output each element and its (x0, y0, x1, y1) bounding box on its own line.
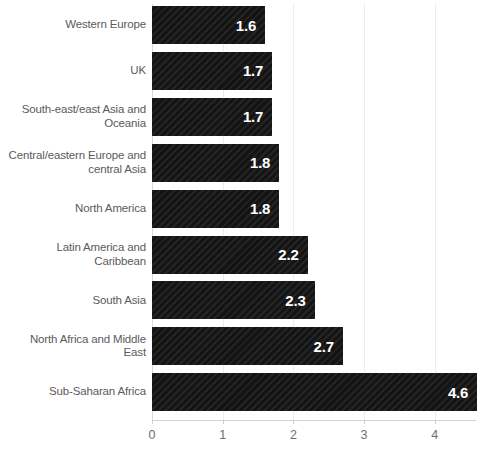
bar[interactable]: 1.6 (152, 6, 265, 44)
bar-value-label: 2.7 (314, 338, 343, 355)
bar-row: Western Europe1.6 (0, 6, 486, 44)
tick-mark-0 (152, 420, 153, 424)
bar-value-label: 1.7 (243, 108, 272, 125)
bar-row: Latin America and Caribbean2.2 (0, 236, 486, 274)
x-tick-label: 2 (278, 428, 308, 442)
x-tick-label: 0 (137, 428, 167, 442)
bar-row: North Africa and Middle East2.7 (0, 327, 486, 365)
bar[interactable]: 4.6 (152, 373, 477, 411)
bar[interactable]: 2.3 (152, 281, 315, 319)
category-label: UK (6, 52, 152, 90)
bar-container: 1.8 (152, 190, 279, 228)
bar[interactable]: 1.8 (152, 190, 279, 228)
bar[interactable]: 1.8 (152, 144, 279, 182)
bar-container: 1.7 (152, 52, 272, 90)
tick-mark-3 (364, 420, 365, 424)
tick-mark-4 (435, 420, 436, 424)
x-axis-line (152, 420, 476, 421)
bar[interactable]: 1.7 (152, 52, 272, 90)
bar-value-label: 4.6 (448, 384, 477, 401)
bar-value-label: 2.3 (285, 292, 314, 309)
bar-row: South-east/east Asia and Oceania1.7 (0, 98, 486, 136)
tick-mark-1 (223, 420, 224, 424)
x-tick-label: 3 (349, 428, 379, 442)
category-label: Western Europe (6, 6, 152, 44)
bar-value-label: 1.7 (243, 62, 272, 79)
bar-row: UK1.7 (0, 52, 486, 90)
category-label: Latin America and Caribbean (6, 236, 152, 274)
category-label: Central/eastern Europe and central Asia (6, 144, 152, 182)
bar-row: Sub-Saharan Africa4.6 (0, 373, 486, 411)
bar-value-label: 1.8 (250, 154, 279, 171)
category-label: Sub-Saharan Africa (6, 373, 152, 411)
bar-container: 2.7 (152, 327, 343, 365)
bar[interactable]: 2.2 (152, 236, 308, 274)
category-label: South Asia (6, 281, 152, 319)
bar-value-label: 1.6 (236, 17, 265, 34)
bar-container: 4.6 (152, 373, 477, 411)
x-tick-label: 4 (420, 428, 450, 442)
category-label: North Africa and Middle East (6, 327, 152, 365)
bar-value-label: 2.2 (278, 246, 307, 263)
bar[interactable]: 1.7 (152, 98, 272, 136)
category-label: South-east/east Asia and Oceania (6, 98, 152, 136)
bar-container: 1.8 (152, 144, 279, 182)
bar-container: 1.7 (152, 98, 272, 136)
bar-container: 2.2 (152, 236, 308, 274)
category-label: North America (6, 190, 152, 228)
bar-container: 2.3 (152, 281, 315, 319)
bar-value-label: 1.8 (250, 200, 279, 217)
bar-row: South Asia2.3 (0, 281, 486, 319)
bar-row: Central/eastern Europe and central Asia1… (0, 144, 486, 182)
bar-container: 1.6 (152, 6, 265, 44)
bar-row: North America1.8 (0, 190, 486, 228)
bar[interactable]: 2.7 (152, 327, 343, 365)
tick-mark-2 (293, 420, 294, 424)
x-tick-label: 1 (208, 428, 238, 442)
bar-chart: Western Europe1.6UK1.7South-east/east As… (0, 0, 486, 458)
